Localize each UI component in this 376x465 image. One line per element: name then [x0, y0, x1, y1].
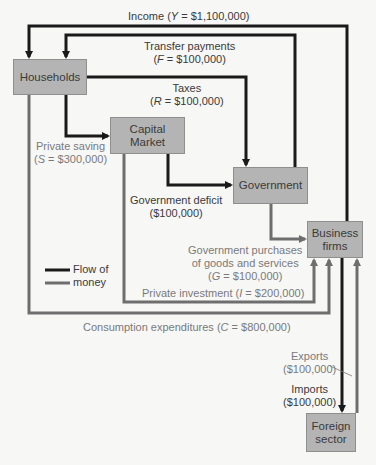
deficit-label: Government deficit($100,000)	[130, 194, 222, 220]
purchases-flow	[271, 204, 305, 239]
saving-label: Private saving(S = $300,000)	[34, 140, 107, 166]
foreign-label-2: sector	[315, 433, 346, 446]
business-label-1: Business	[312, 227, 359, 240]
capital-market-node: Capital Market	[110, 117, 185, 154]
income-label: Income (Y = $1,100,000)	[128, 10, 249, 23]
government-node: Government	[233, 167, 308, 204]
consumption-label: Consumption expenditures (C = $800,000)	[83, 321, 291, 334]
foreign-sector-node: Foreign sector	[306, 413, 356, 452]
business-firms-node: Business firms	[307, 221, 363, 258]
purchases-label: Government purchasesof goods and service…	[188, 244, 302, 283]
government-label: Government	[239, 179, 302, 192]
households-node: Households	[13, 59, 87, 95]
investment-label: Private investment (I = $200,000)	[142, 287, 304, 300]
deficit-flow	[168, 154, 231, 185]
legend-label: Flow ofmoney	[73, 263, 108, 289]
households-label: Households	[20, 71, 81, 84]
foreign-label-1: Foreign	[312, 420, 351, 433]
capital-market-label-2: Market	[130, 136, 165, 149]
transfer-label: Transfer payments(F = $100,000)	[144, 40, 235, 66]
capital-market-label-1: Capital	[130, 123, 166, 136]
imports-label: Imports($100,000)	[283, 383, 336, 409]
exports-label: Exports($100,000)	[283, 350, 336, 376]
business-label-2: firms	[323, 240, 348, 253]
taxes-label: Taxes(R = $100,000)	[150, 82, 224, 108]
saving-flow	[66, 95, 108, 136]
